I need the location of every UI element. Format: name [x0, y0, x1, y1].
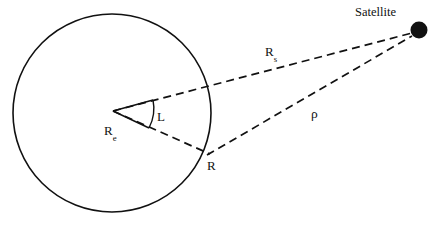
earth-radius-label: Re — [104, 124, 117, 140]
angle-ray-lower — [113, 111, 149, 128]
angle-ray-upper — [113, 100, 153, 111]
satellite-geometry-diagram: Satellite Rs ρ Re L R — [0, 0, 444, 226]
satellite-label: Satellite — [355, 6, 396, 19]
earth-circle — [13, 14, 211, 212]
slant-range-label: ρ — [311, 107, 318, 121]
line-earth-center-to-satellite — [113, 33, 412, 111]
diagram-canvas — [0, 0, 444, 226]
angle-arc — [149, 100, 154, 128]
line-surface-point-to-satellite — [207, 36, 412, 155]
satellite-radius-subscript: s — [274, 54, 277, 64]
earth-radius-base: R — [104, 123, 113, 138]
satellite-radius-base: R — [265, 44, 274, 59]
satellite-radius-label: Rs — [265, 45, 277, 61]
satellite-dot — [411, 22, 428, 39]
central-angle-label: L — [157, 110, 165, 123]
surface-point-label: R — [207, 159, 216, 172]
earth-radius-subscript: e — [113, 133, 117, 143]
